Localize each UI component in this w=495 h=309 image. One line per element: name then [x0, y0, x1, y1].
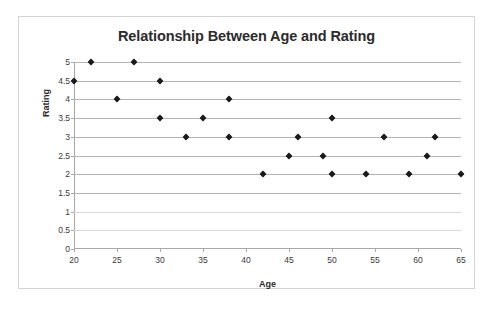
y-tick-label: 1.5 [58, 188, 70, 198]
scatter-point [285, 152, 292, 159]
gridline [74, 118, 461, 119]
scatter-point [320, 152, 327, 159]
x-tick-mark [160, 249, 161, 252]
y-tick-label: 4.5 [58, 76, 70, 86]
scatter-point [225, 133, 232, 140]
y-tick-label: 5 [65, 57, 70, 67]
y-tick-mark [71, 137, 74, 138]
x-tick-mark [203, 249, 204, 252]
gridline [74, 156, 461, 157]
x-tick-label: 20 [69, 255, 78, 265]
x-axis-title: Age [74, 279, 461, 289]
x-tick-label: 55 [370, 255, 379, 265]
y-tick-mark [71, 212, 74, 213]
gridline [74, 193, 461, 194]
x-tick-mark [117, 249, 118, 252]
y-axis-title: Rating [41, 89, 51, 117]
y-tick-mark [71, 230, 74, 231]
y-tick-label: 0.5 [58, 225, 70, 235]
gridline [74, 137, 461, 138]
y-tick-mark [71, 193, 74, 194]
scatter-point [457, 171, 464, 178]
x-tick-mark [332, 249, 333, 252]
gridline [74, 212, 461, 213]
scatter-point [225, 96, 232, 103]
x-tick-label: 35 [198, 255, 207, 265]
scatter-point [406, 171, 413, 178]
x-tick-label: 25 [112, 255, 121, 265]
x-tick-label: 50 [327, 255, 336, 265]
y-tick-label: 3 [65, 132, 70, 142]
y-tick-label: 2.5 [58, 151, 70, 161]
scatter-point [199, 115, 206, 122]
chart-frame: Relationship Between Age and Rating Rati… [18, 16, 475, 289]
y-tick-label: 2 [65, 169, 70, 179]
y-tick-mark [71, 174, 74, 175]
y-tick-mark [71, 156, 74, 157]
scatter-point [182, 133, 189, 140]
x-tick-label: 30 [155, 255, 164, 265]
gridline [74, 99, 461, 100]
scatter-point [131, 58, 138, 65]
x-tick-mark [74, 249, 75, 252]
scatter-point [113, 96, 120, 103]
scatter-point [156, 115, 163, 122]
x-tick-label: 40 [241, 255, 250, 265]
scatter-point [432, 133, 439, 140]
x-tick-mark [246, 249, 247, 252]
gridline [74, 174, 461, 175]
scatter-point [88, 58, 95, 65]
scatter-point [423, 152, 430, 159]
scatter-point [294, 133, 301, 140]
x-tick-mark [418, 249, 419, 252]
x-tick-mark [461, 249, 462, 252]
y-tick-label: 1 [65, 207, 70, 217]
x-axis-line [74, 248, 461, 249]
scatter-point [328, 171, 335, 178]
y-tick-label: 3.5 [58, 113, 70, 123]
gridline [74, 81, 461, 82]
plot-area: 00.511.522.533.544.55 202530354045505560… [74, 62, 461, 249]
y-tick-mark [71, 62, 74, 63]
y-tick-mark [71, 118, 74, 119]
y-tick-label: 0 [65, 244, 70, 254]
scatter-point [363, 171, 370, 178]
scatter-point [380, 133, 387, 140]
scatter-point [156, 77, 163, 84]
chart-title: Relationship Between Age and Rating [19, 28, 474, 44]
y-tick-label: 4 [65, 94, 70, 104]
gridline [74, 230, 461, 231]
x-tick-label: 60 [413, 255, 422, 265]
x-tick-mark [289, 249, 290, 252]
scatter-point [328, 115, 335, 122]
scatter-point [260, 171, 267, 178]
y-tick-mark [71, 99, 74, 100]
scatter-point [70, 77, 77, 84]
x-tick-label: 45 [284, 255, 293, 265]
x-tick-label: 65 [456, 255, 465, 265]
x-tick-mark [375, 249, 376, 252]
